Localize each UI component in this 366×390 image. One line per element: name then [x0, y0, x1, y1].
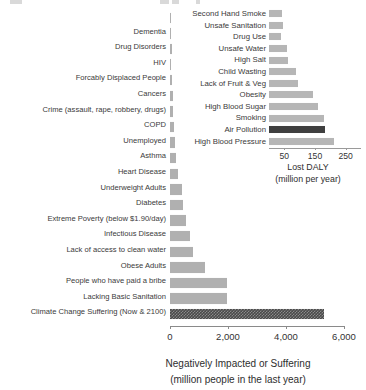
inset-chart-row: Unsafe Water — [178, 43, 366, 55]
main-bar — [170, 27, 171, 40]
main-bar — [170, 168, 178, 181]
crop-artifact-right — [196, 0, 200, 4]
main-bar — [170, 152, 176, 165]
main-category-label: Obese Adults — [0, 260, 166, 271]
main-bar — [170, 105, 173, 118]
main-category-label: Extreme Poverty (below $1.90/day) — [0, 213, 166, 224]
inset-category-label: High Blood Sugar — [178, 101, 266, 112]
inset-category-label: Lack of Fruit & Veg — [178, 78, 266, 89]
main-bar — [170, 261, 205, 274]
inset-chart-row: Obesity — [178, 89, 366, 101]
main-category-label: Dementia — [0, 26, 166, 37]
inset-category-label: Unsafe Water — [178, 43, 266, 54]
inset-chart-row: High Blood Sugar — [178, 101, 366, 113]
inset-chart-row: High Salt — [178, 54, 366, 66]
inset-category-label: Child Wasting — [178, 66, 266, 77]
inset-chart-row: Second Hand Smoke — [178, 8, 366, 20]
inset-chart-row: Lack of Fruit & Veg — [178, 78, 366, 90]
inset-bar — [269, 44, 287, 53]
inset-bar — [269, 79, 298, 88]
crop-artifact-mid — [160, 0, 169, 4]
main-x-tick — [344, 326, 345, 329]
inset-chart-row: Air Pollution — [178, 124, 366, 136]
inset-chart-row: Drug Use — [178, 31, 366, 43]
main-x-tick-label: 0 — [147, 331, 193, 342]
main-bar — [170, 90, 173, 103]
main-bar — [170, 214, 186, 227]
main-category-label: Drug Disorders — [0, 41, 166, 52]
main-bar — [170, 43, 172, 56]
main-bar — [170, 58, 171, 71]
inset-category-label: Second Hand Smoke — [178, 8, 266, 19]
inset-category-label: Obesity — [178, 89, 266, 100]
main-category-label: COPD — [0, 119, 166, 130]
main-category-label: People who have paid a bribe — [0, 275, 166, 286]
inset-chart-row: Smoking — [178, 112, 366, 124]
inset-category-label: Unsafe Sanitation — [178, 20, 266, 31]
main-category-label: Climate Change Suffering (Now & 2100) — [0, 306, 166, 317]
main-bar — [170, 12, 171, 25]
main-chart-row: Climate Change Suffering (Now & 2100) — [0, 305, 366, 322]
main-category-label: Cancers — [0, 88, 166, 99]
main-x-tick — [286, 326, 287, 329]
main-x-tick-label: 6,000 — [321, 331, 366, 342]
main-category-label: Infectious Disease — [0, 228, 166, 239]
inset-bar — [269, 90, 313, 99]
main-category-label: Lacking Basic Sanitation — [0, 291, 166, 302]
main-x-axis-line — [170, 326, 344, 327]
inset-x-tick — [346, 148, 347, 150]
main-bar — [170, 308, 324, 321]
inset-bar — [269, 56, 288, 65]
inset-x-axis-subtitle: (million per year) — [250, 174, 366, 184]
chart-figure: DementiaDrug DisordersHIVForcably Displa… — [0, 0, 366, 390]
inset-bar-chart: Second Hand SmokeUnsafe SanitationDrug U… — [178, 6, 366, 178]
main-bar — [170, 246, 193, 259]
inset-x-axis-title: Lost DALY — [250, 162, 366, 172]
main-category-label: Unemployed — [0, 135, 166, 146]
main-x-axis-title: Negatively Impacted or Suffering — [110, 358, 366, 369]
main-category-label: Underweight Adults — [0, 182, 166, 193]
main-x-tick — [170, 326, 171, 329]
main-category-label: Forcably Displaced People — [0, 72, 166, 83]
inset-bar — [269, 32, 281, 41]
main-bar — [170, 199, 183, 212]
main-bar — [170, 136, 175, 149]
main-x-tick-label: 2,000 — [205, 331, 251, 342]
inset-bar — [269, 137, 334, 146]
inset-bar — [269, 125, 325, 134]
main-category-label: Lack of access to clean water — [0, 244, 166, 255]
inset-category-label: Drug Use — [178, 31, 266, 42]
inset-chart-row: Unsafe Sanitation — [178, 20, 366, 32]
main-bar — [170, 183, 182, 196]
inset-category-label: Smoking — [178, 112, 266, 123]
crop-artifact-left — [10, 0, 22, 4]
main-bar — [170, 292, 227, 305]
main-category-label: HIV — [0, 57, 166, 68]
inset-bar — [269, 114, 324, 123]
inset-x-tick — [315, 148, 316, 150]
inset-x-tick-label: 150 — [300, 151, 330, 161]
inset-x-tick-label: 50 — [269, 151, 299, 161]
inset-category-label: High Blood Pressure — [178, 136, 266, 147]
main-category-label: Heart Disease — [0, 166, 166, 177]
main-x-tick — [228, 326, 229, 329]
inset-category-label: Air Pollution — [178, 124, 266, 135]
main-category-label: Diabetes — [0, 197, 166, 208]
main-category-label: Asthma — [0, 150, 166, 161]
crop-artifact-mid2 — [172, 0, 179, 4]
main-bar — [170, 230, 190, 243]
main-x-tick-label: 4,000 — [263, 331, 309, 342]
main-bar — [170, 121, 174, 134]
inset-bar — [269, 9, 282, 18]
main-bar — [170, 74, 172, 87]
inset-x-tick-label: 250 — [331, 151, 361, 161]
inset-category-label: High Salt — [178, 54, 266, 65]
inset-x-tick — [284, 148, 285, 150]
main-x-axis-subtitle: (million people in the last year) — [110, 374, 366, 385]
main-bar — [170, 277, 227, 290]
main-category-label: Crime (assault, rape, robbery, drugs) — [0, 104, 166, 115]
inset-chart-row: Child Wasting — [178, 66, 366, 78]
inset-bar — [269, 67, 296, 76]
inset-bar — [269, 21, 283, 30]
inset-bar — [269, 102, 318, 111]
